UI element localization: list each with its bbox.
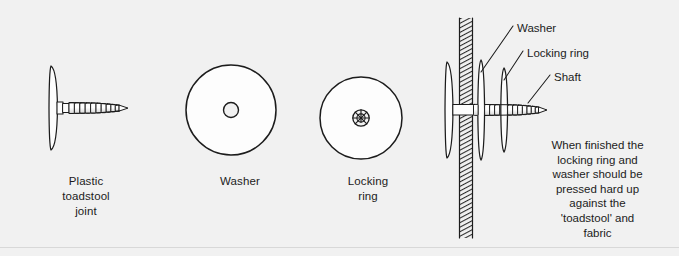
toadstool-joint-figure: Plastic toadstool joint Washer Locking r… [0, 0, 679, 256]
fabric-band [460, 18, 473, 238]
leader-shaft [528, 75, 550, 103]
leader-locking-ring [504, 51, 523, 80]
caption-toadstool-joint: Plastic toadstool joint [26, 174, 146, 219]
washer-disc-icon [186, 65, 276, 155]
label-shaft: Shaft [554, 70, 581, 84]
assembly-locking-ring-icon [501, 68, 508, 152]
label-locking-ring: Locking ring [527, 46, 589, 60]
leader-washer [481, 26, 513, 72]
leader-lines [481, 26, 550, 103]
toadstool-screw-icon [49, 66, 128, 150]
assembly-instruction-note: When finished the locking ring and washe… [516, 138, 679, 240]
locking-ring-disc-icon [320, 77, 402, 159]
assembly-shaft-icon [474, 104, 548, 115]
assembly-washer-icon [478, 60, 485, 160]
label-washer: Washer [517, 21, 556, 35]
caption-washer: Washer [180, 174, 300, 189]
caption-locking-ring: Locking ring [308, 174, 428, 204]
